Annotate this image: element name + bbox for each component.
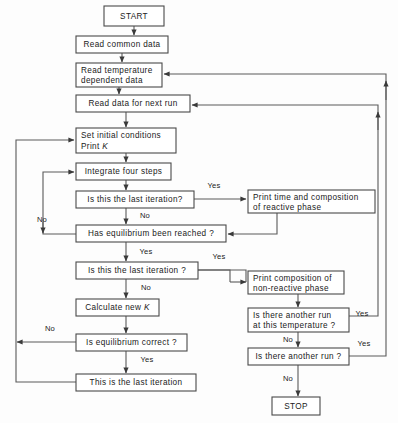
node-read-next-run[interactable]: Read data for next run bbox=[76, 95, 190, 112]
print-label: Print bbox=[81, 142, 102, 151]
edge-label-no-equilibrium-correct: No bbox=[45, 324, 55, 333]
node-set-initial-conditions-line-0: Set initial conditions bbox=[81, 131, 161, 140]
node-calculate-new-k-line-0: Calculate new K bbox=[85, 303, 150, 312]
edge-lastiter2-yes-to-printnonreact bbox=[198, 270, 246, 282]
k-symbol-2: K bbox=[144, 303, 150, 312]
node-print-reactive-phase[interactable]: Print time and composition of reactive p… bbox=[248, 190, 375, 213]
edge-label-yes-last-iteration-2: Yes bbox=[213, 252, 226, 261]
node-another-temp-line-1: at this temperature ? bbox=[253, 321, 336, 330]
edge-label-yes-another-temperature: Yes bbox=[356, 309, 369, 318]
node-is-equilibrium-correct-line-0: Is equilibrium correct ? bbox=[86, 338, 177, 347]
edge-label-no-another-temperature: No bbox=[283, 335, 293, 344]
edge-label-yes-equilibrium-correct: Yes bbox=[141, 355, 154, 364]
node-read-next-run-line-0: Read data for next run bbox=[88, 99, 177, 108]
node-this-is-last-iteration[interactable]: This is the last iteration bbox=[76, 374, 196, 391]
node-another-temp-line-0: Is there another run bbox=[253, 311, 332, 320]
node-has-equilibrium-line-0: Has equilibrium been reached ? bbox=[88, 229, 214, 238]
flowchart-svg: START Read common data Read temperature … bbox=[0, 0, 398, 423]
node-is-last-iteration-2-line-0: Is this the last iteration ? bbox=[88, 266, 186, 275]
node-read-common-line-0: Read common data bbox=[83, 40, 160, 49]
edge-label-yes-another-run: Yes bbox=[358, 339, 371, 348]
edge-label-yes-equilibrium-reached: Yes bbox=[140, 247, 153, 256]
node-is-equilibrium-correct[interactable]: Is equilibrium correct ? bbox=[76, 334, 187, 351]
node-print-reactive-line-1: of reactive phase bbox=[253, 203, 321, 212]
node-layer: START Read common data Read temperature … bbox=[76, 6, 375, 415]
node-another-run-line-0: Is there another run ? bbox=[256, 352, 342, 361]
node-integrate-line-0: Integrate four steps bbox=[85, 167, 163, 176]
node-set-initial-conditions-line-1: Print K bbox=[81, 142, 108, 151]
edge-lastiter2-yes-bend bbox=[198, 270, 230, 282]
edge-label-no-equilibrium-reached: No bbox=[37, 215, 47, 224]
node-start-line-0: START bbox=[120, 12, 148, 21]
node-read-temperature-line-1: dependent data bbox=[81, 76, 143, 85]
node-has-equilibrium-been-reached[interactable]: Has equilibrium been reached ? bbox=[76, 225, 226, 242]
edge-label-no-last-iteration-1: No bbox=[140, 211, 150, 220]
node-is-last-iteration-2[interactable]: Is this the last iteration ? bbox=[76, 262, 198, 279]
node-print-nonreactive-line-1: non-reactive phase bbox=[253, 284, 329, 293]
edge-label-no-last-iteration-2: No bbox=[141, 283, 151, 292]
node-read-temperature[interactable]: Read temperature dependent data bbox=[76, 63, 162, 87]
node-calculate-new-k[interactable]: Calculate new K bbox=[76, 299, 159, 316]
edge-label-yes-last-iteration-1: Yes bbox=[208, 181, 221, 190]
node-this-is-last-iteration-line-0: This is the last iteration bbox=[90, 378, 183, 387]
node-stop[interactable]: STOP bbox=[272, 397, 320, 415]
node-integrate-four-steps[interactable]: Integrate four steps bbox=[76, 163, 171, 180]
edge-thislast-loop-to-setinit bbox=[16, 140, 76, 382]
node-read-temperature-line-0: Read temperature bbox=[81, 66, 153, 75]
node-print-nonreactive-line-0: Print composition of bbox=[253, 274, 332, 283]
node-start[interactable]: START bbox=[104, 6, 164, 26]
k-symbol: K bbox=[102, 142, 108, 151]
node-set-initial-conditions[interactable]: Set initial conditions Print K bbox=[76, 128, 176, 153]
edge-equilreach-no-to-integrate bbox=[43, 172, 76, 234]
node-print-nonreactive-phase[interactable]: Print composition of non-reactive phase bbox=[248, 271, 344, 294]
node-print-reactive-line-0: Print time and composition bbox=[253, 193, 359, 202]
node-stop-line-0: STOP bbox=[284, 402, 308, 411]
node-is-last-iteration-1[interactable]: Is this the last iteration? bbox=[76, 191, 194, 208]
calculate-new-label: Calculate new bbox=[85, 303, 144, 312]
node-another-run-this-temperature[interactable]: Is there another run at this temperature… bbox=[248, 308, 349, 332]
node-another-run[interactable]: Is there another run ? bbox=[248, 348, 349, 365]
edge-printreact-to-equilreach bbox=[228, 213, 277, 234]
edge-label-no-another-run: No bbox=[283, 374, 293, 383]
node-read-common[interactable]: Read common data bbox=[76, 36, 168, 53]
node-is-last-iteration-1-line-0: Is this the last iteration? bbox=[87, 195, 183, 204]
flowchart-canvas: START Read common data Read temperature … bbox=[0, 0, 398, 423]
